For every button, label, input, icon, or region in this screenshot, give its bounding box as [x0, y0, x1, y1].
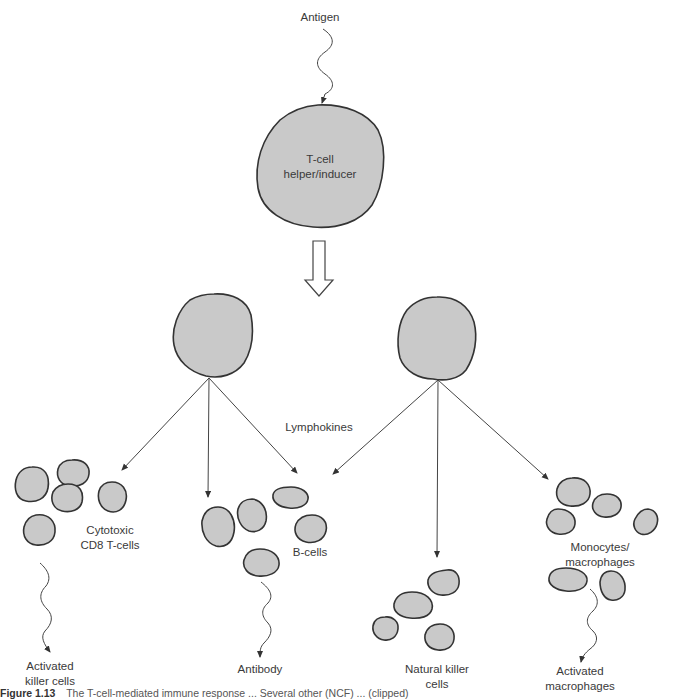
figure-number: Figure 1.13 — [0, 687, 55, 699]
activated-killer-line-1: Activated — [25, 659, 75, 674]
figure-caption: Figure 1.13 The T-cell-mediated immune r… — [0, 687, 409, 699]
arrow-to-monocytes — [438, 380, 548, 479]
cytotoxic-label: Cytotoxic CD8 T-cells — [80, 523, 139, 553]
nk-label-line-2: cells — [405, 677, 469, 692]
nk-label-line-1: Natural killer — [405, 662, 469, 677]
cytotoxic-label-line-1: Cytotoxic — [80, 523, 139, 538]
caption-text: The T-cell-mediated immune response ... … — [66, 687, 408, 699]
arrow-to-antibody-pathway — [208, 378, 209, 497]
lymphokines-label: Lymphokines — [285, 420, 352, 435]
monocytes-label-line-2: macrophages — [565, 555, 635, 570]
right-daughter-cell — [398, 297, 476, 380]
cytotoxic-label-line-2: CD8 T-cells — [80, 538, 139, 553]
arrow-to-nk — [437, 380, 438, 557]
antigen-label: Antigen — [300, 10, 339, 25]
nk-label: Natural killer cells — [405, 662, 469, 692]
monocytes-label: Monocytes/ macrophages — [565, 540, 635, 570]
activated-macrophages-line-1: Activated — [545, 664, 615, 679]
arrow-to-cytotoxic — [122, 378, 209, 470]
nk-cell-group — [373, 570, 459, 650]
left-daughter-cell — [173, 294, 252, 377]
bcell-group — [202, 487, 327, 576]
antigen-wavy-arrow — [318, 29, 333, 103]
monocytes-label-line-1: Monocytes/ — [565, 540, 635, 555]
helper-t-cell-label: T-cell helper/inducer — [284, 152, 357, 182]
activated-macrophages-label: Activated macrophages — [545, 664, 615, 694]
wavy-arrow-to-activated-macrophages — [581, 589, 597, 662]
activated-killer-label: Activated killer cells — [25, 659, 75, 689]
bcells-label: B-cells — [293, 545, 328, 560]
antibody-label: Antibody — [238, 662, 283, 677]
wavy-arrow-to-activated-killer — [40, 563, 51, 652]
helper-label-line-1: T-cell — [284, 152, 357, 167]
arrow-to-bcells-left — [209, 378, 297, 473]
wavy-arrow-to-antibody — [260, 582, 271, 657]
activated-macrophages-line-2: macrophages — [545, 679, 615, 694]
helper-label-line-2: helper/inducer — [284, 167, 357, 182]
hollow-down-arrow — [305, 241, 333, 296]
